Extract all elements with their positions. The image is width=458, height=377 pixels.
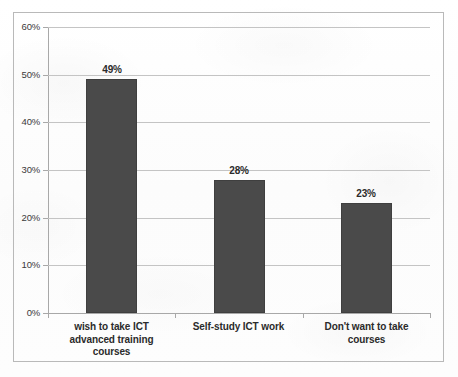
gridline	[48, 313, 430, 314]
x-axis-tick	[175, 313, 176, 318]
bar	[86, 79, 137, 313]
bar-value-label: 28%	[199, 165, 279, 176]
bar-chart: 0%10%20%30%40%50%60% 49%wish to take ICT…	[0, 0, 458, 377]
bar-value-label: 23%	[326, 188, 406, 199]
bar	[341, 203, 392, 313]
category-label-line: courses	[48, 346, 175, 359]
y-axis-label: 0%	[0, 307, 40, 318]
bar-value-label: 49%	[72, 64, 152, 75]
category-label-line: Don't want to take	[303, 321, 430, 334]
category-label-line: courses	[303, 334, 430, 347]
y-axis-label: 20%	[0, 212, 40, 223]
category-label-line: advanced training	[48, 334, 175, 347]
category-label-line: Self-study ICT work	[175, 321, 302, 334]
x-axis-category-label: Self-study ICT work	[175, 321, 302, 334]
x-axis-category-label: wish to take ICTadvanced trainingcourses	[48, 321, 175, 359]
bar	[214, 180, 265, 313]
x-axis-tick	[48, 313, 49, 318]
x-axis-tick	[303, 313, 304, 318]
y-axis-label: 60%	[0, 21, 40, 32]
y-axis-label: 40%	[0, 116, 40, 127]
x-axis-category-label: Don't want to takecourses	[303, 321, 430, 346]
category-label-line: wish to take ICT	[48, 321, 175, 334]
y-axis-label: 50%	[0, 69, 40, 80]
y-axis-label: 10%	[0, 259, 40, 270]
x-axis-tick	[430, 313, 431, 318]
y-axis-label: 30%	[0, 164, 40, 175]
